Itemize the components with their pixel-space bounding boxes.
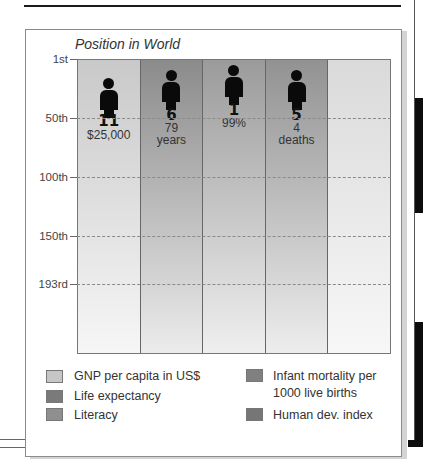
legend-label-gnp: GNP per capita in US$ — [74, 369, 200, 383]
column-literacy: 1 99% — [203, 60, 266, 353]
y-tick-label: 50th — [8, 112, 68, 124]
column-infant-mortality: 5 4 deaths — [266, 60, 329, 353]
column-human-dev-index — [328, 60, 390, 353]
legend-label-literacy: Literacy — [74, 408, 118, 422]
right-margin-bar-lower — [415, 322, 423, 447]
column-life-expectancy: 6 79 years — [141, 60, 204, 353]
legend-swatch-human-dev-index — [246, 408, 263, 421]
y-tick-label: 1st — [8, 53, 68, 65]
gridline-50th — [77, 118, 391, 119]
y-tick-label: 150th — [8, 230, 68, 242]
y-tick-label: 100th — [8, 171, 68, 183]
left-rule-lower — [0, 447, 26, 448]
y-tick — [70, 236, 77, 237]
legend-swatch-life-expectancy — [46, 390, 63, 403]
top-rule — [24, 5, 401, 7]
rank-value: 11 — [78, 114, 140, 129]
person-icon — [224, 65, 244, 105]
chart-area: 11 $25,000 6 79 years 1 99% 5 4 deaths — [77, 59, 391, 354]
column-gnp: 11 $25,000 — [78, 60, 141, 353]
legend-label-life-expectancy: Life expectancy — [74, 389, 161, 403]
y-tick — [70, 118, 77, 119]
legend-swatch-gnp — [46, 370, 63, 383]
legend-label-infant-mortality-line2: 1000 live births — [273, 386, 357, 400]
y-tick — [70, 59, 77, 60]
legend-swatch-literacy — [46, 408, 63, 421]
legend-label-infant-mortality: Infant mortality per — [273, 369, 377, 383]
y-tick — [70, 177, 77, 178]
y-tick-label: 193rd — [8, 278, 68, 290]
gridline-193rd — [77, 284, 391, 285]
person-icon — [161, 70, 181, 110]
person-icon — [287, 70, 307, 110]
legend-label-human-dev-index: Human dev. index — [273, 408, 373, 422]
stat-unit: years — [141, 134, 203, 147]
stat-unit: deaths — [266, 134, 328, 147]
y-tick — [70, 284, 77, 285]
gridline-100th — [77, 177, 391, 178]
chart-title: Position in World — [75, 36, 180, 52]
gridline-150th — [77, 236, 391, 237]
stat-value: $25,000 — [78, 129, 140, 142]
right-margin-bar-upper — [415, 98, 423, 213]
left-rule-upper — [0, 439, 26, 440]
right-margin-foot — [408, 440, 423, 447]
legend-swatch-infant-mortality — [246, 369, 263, 382]
